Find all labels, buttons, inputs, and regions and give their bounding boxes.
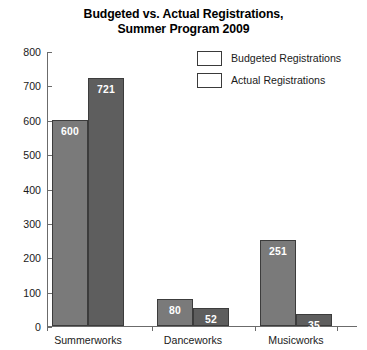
x-axis-tick: [337, 327, 338, 331]
x-axis-label-musicworks: Musicworks: [268, 334, 323, 346]
bar-actual-musicworks[interactable]: 35: [296, 314, 332, 326]
x-axis-label-summerworks: Summerworks: [54, 334, 122, 346]
bar-value-label: 80: [158, 305, 192, 316]
bar-budgeted-summerworks[interactable]: 600: [52, 120, 88, 326]
bar-value-label: 52: [194, 314, 228, 325]
bar-actual-danceworks[interactable]: 52: [193, 308, 229, 326]
y-axis-tick-label: 500: [23, 149, 41, 161]
bar-actual-summerworks[interactable]: 721: [88, 78, 124, 326]
y-axis-tick-label: 0: [35, 321, 41, 333]
bar-budgeted-musicworks[interactable]: 251: [260, 240, 296, 326]
y-axis-tick-label: 300: [23, 218, 41, 230]
y-axis-tick-label: 700: [23, 80, 41, 92]
y-axis-tick-label: 100: [23, 287, 41, 299]
y-axis-tick: 800: [48, 52, 52, 53]
y-axis-tick-label: 600: [23, 115, 41, 127]
chart-title: Budgeted vs. Actual Registrations, Summe…: [0, 7, 367, 37]
chart-title-line-1: Budgeted vs. Actual Registrations,: [0, 7, 367, 22]
bar-value-label: 600: [53, 126, 87, 137]
bar-value-label: 721: [89, 84, 123, 95]
x-axis-tick: [255, 327, 256, 331]
bar-value-label: 251: [261, 246, 295, 257]
x-axis-tick: [152, 327, 153, 331]
x-axis-label-danceworks: Danceworks: [164, 334, 222, 346]
y-axis-tick-label: 200: [23, 252, 41, 264]
y-axis-tick-label: 800: [23, 46, 41, 58]
x-axis-tick: [47, 327, 48, 331]
bar-budgeted-danceworks[interactable]: 80: [157, 299, 193, 327]
chart-title-line-2: Summer Program 2009: [0, 22, 367, 37]
bar-value-label: 35: [297, 320, 331, 331]
y-axis-tick: 700: [48, 86, 52, 87]
y-axis-tick-label: 400: [23, 184, 41, 196]
plot-area: 0100200300400500600700800 60072180522513…: [47, 52, 364, 327]
y-axis-tick: 0: [48, 327, 52, 328]
bar-chart: Budgeted vs. Actual Registrations, Summe…: [0, 0, 367, 350]
